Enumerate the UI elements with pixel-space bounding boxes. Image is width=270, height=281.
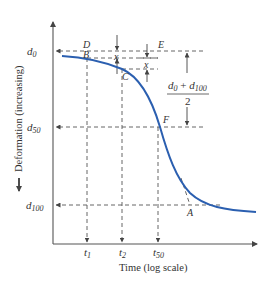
point-a-label: A [186,207,194,218]
offset-x-label-1: x [113,51,119,62]
y-tick-d0: d0 [27,45,37,59]
x-tick-t50: t50 [153,246,164,260]
horizontal-reference-lines [56,51,220,205]
x-tick-t1: t1 [84,246,91,260]
point-b-label: B [83,49,89,60]
y-axis-label: Deformation (increasing) [13,65,25,172]
vertical-drop-lines [87,58,158,242]
consolidation-curve-diagram: d0 d50 d100 t1 t2 t50 D B C E F A x x d0… [0,0,270,281]
fraction-denominator: 2 [185,95,191,107]
point-c-label: C [122,71,129,82]
x-tick-t2: t2 [119,246,126,260]
fraction-numerator: d0 + d100 [168,79,207,93]
y-tick-d100: d100 [26,199,44,213]
half-sum-fraction: d0 + d100 2 [167,79,209,107]
point-f-label: F [162,114,170,125]
consolidation-curve [62,56,256,212]
y-tick-d50: d50 [27,121,41,135]
y-axis-label-group: Deformation (increasing) [13,65,25,191]
point-e-label: E [157,39,164,50]
offset-x-label-2: x [143,59,149,70]
x-axis-label: Time (log scale) [119,262,188,274]
